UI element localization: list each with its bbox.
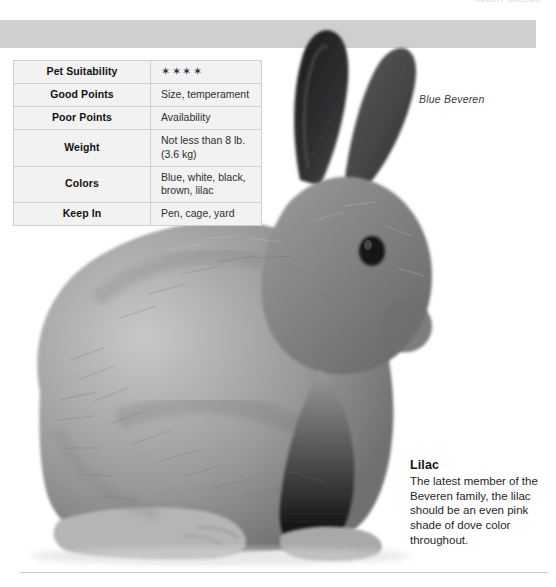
row-value-rating: ✶✶✶✶ <box>151 61 262 84</box>
row-value: Not less than 8 lb. (3.6 kg) <box>151 130 262 166</box>
row-value: Size, temperament <box>151 84 262 107</box>
table-row: Good Points Size, temperament <box>14 84 262 107</box>
breed-note: Lilac The latest member of the Beveren f… <box>410 458 552 548</box>
row-label: Weight <box>14 130 151 166</box>
row-label: Pet Suitability <box>14 61 151 84</box>
breed-fact-table: Pet Suitability ✶✶✶✶ Good Points Size, t… <box>13 60 262 226</box>
row-value: Blue, white, black, brown, lilac <box>151 166 262 202</box>
breed-note-body: The latest member of the Beveren family,… <box>410 474 552 548</box>
row-label: Colors <box>14 166 151 202</box>
table-row: Weight Not less than 8 lb. (3.6 kg) <box>14 130 262 166</box>
table-row: Pet Suitability ✶✶✶✶ <box>14 61 262 84</box>
page-root: RABBIT BREEDS <box>0 0 556 587</box>
table-row: Keep In Pen, cage, yard <box>14 202 262 225</box>
table-row: Colors Blue, white, black, brown, lilac <box>14 166 262 202</box>
row-label: Keep In <box>14 202 151 225</box>
header-banner <box>0 20 536 48</box>
photo-caption-blue-beveren: Blue Beveren <box>419 93 484 105</box>
footer-divider <box>20 572 548 573</box>
row-label: Poor Points <box>14 107 151 130</box>
row-label: Good Points <box>14 84 151 107</box>
row-value: Pen, cage, yard <box>151 202 262 225</box>
breed-note-title: Lilac <box>410 458 552 472</box>
row-value: Availability <box>151 107 262 130</box>
table-row: Poor Points Availability <box>14 107 262 130</box>
running-head: RABBIT BREEDS <box>475 0 540 3</box>
